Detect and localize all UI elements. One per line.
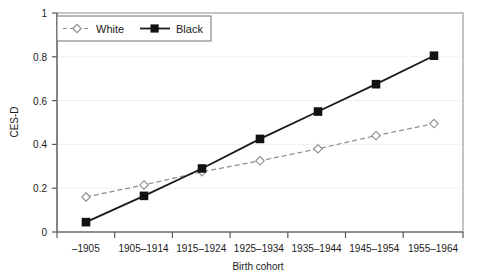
y-tick-label: 0 (41, 227, 47, 238)
x-tick-label: 1925–1934 (234, 243, 284, 254)
y-axis-title: CES-D (9, 106, 20, 137)
filled-square-marker (314, 107, 323, 116)
x-tick-label: 1905–1914 (118, 243, 168, 254)
x-tick-label: 1945–1954 (349, 243, 399, 254)
x-tick-label: 1915–1924 (176, 243, 226, 254)
filled-square-marker (372, 80, 381, 89)
filled-square-marker (140, 192, 149, 201)
x-axis-tick-labels: –1905 1905–1914 1915–1924 1925–1934 1935… (72, 243, 459, 254)
y-tick-label: 0.4 (33, 139, 47, 150)
plot-background (57, 13, 463, 232)
y-tick-label: 1 (41, 8, 47, 19)
filled-square-marker (82, 218, 91, 227)
filled-square-icon (151, 24, 159, 32)
y-tick-label: 0.8 (33, 52, 47, 63)
x-axis-title: Birth cohort (232, 261, 283, 272)
legend: White Black (57, 16, 211, 41)
ces-d-by-birth-cohort-line-chart: 1 0.8 0.6 0.4 0.2 0 CES-D –1905 1905–191… (0, 0, 479, 279)
y-tick-label: 0.6 (33, 96, 47, 107)
y-axis-tick-labels: 1 0.8 0.6 0.4 0.2 0 (33, 8, 47, 238)
x-tick-label: 1955–1964 (408, 243, 458, 254)
filled-square-marker (430, 51, 439, 60)
legend-label-white: White (96, 23, 124, 35)
filled-square-marker (256, 135, 265, 144)
y-tick-label: 0.2 (33, 183, 47, 194)
x-tick-label: 1935–1944 (292, 243, 342, 254)
chart-container: 1 0.8 0.6 0.4 0.2 0 CES-D –1905 1905–191… (0, 0, 479, 279)
x-axis-ticks (57, 232, 463, 238)
x-tick-label: –1905 (72, 243, 100, 254)
legend-label-black: Black (176, 23, 203, 35)
y-axis-ticks (52, 13, 57, 232)
filled-square-marker (198, 164, 207, 173)
